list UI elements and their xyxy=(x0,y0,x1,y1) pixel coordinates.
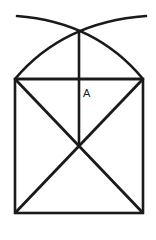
lower-right-diagonal xyxy=(79,146,143,213)
figure-canvas: A xyxy=(0,0,156,240)
geometric-figure: A xyxy=(0,0,156,240)
lower-left-diagonal xyxy=(15,146,79,213)
vertex-label-a: A xyxy=(83,87,91,99)
right-construction-arc xyxy=(15,16,146,79)
upper-left-diagonal xyxy=(15,79,79,146)
